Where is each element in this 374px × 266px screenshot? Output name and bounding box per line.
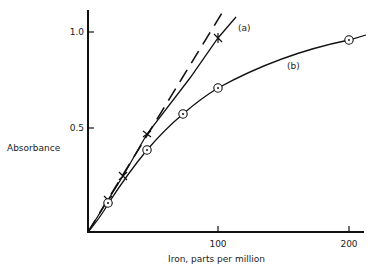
curve-b	[88, 35, 366, 232]
curve-b-label: (b)	[287, 61, 300, 71]
y-tick-label: 0.5	[70, 123, 84, 133]
x-tick-label: 200	[340, 239, 357, 249]
x-axis-label: Iron, parts per million	[168, 254, 265, 264]
y-axis-label: Absorbance	[7, 143, 61, 153]
circle-marker-dots	[107, 39, 350, 204]
x-tick-label: 100	[209, 239, 226, 249]
chart: 1.0 0.5 100 200 Absorbance Iron, parts p…	[0, 0, 374, 266]
y-tick-label: 1.0	[70, 27, 85, 37]
curve-a-label: (a)	[238, 23, 251, 33]
circle-markers	[104, 36, 353, 207]
